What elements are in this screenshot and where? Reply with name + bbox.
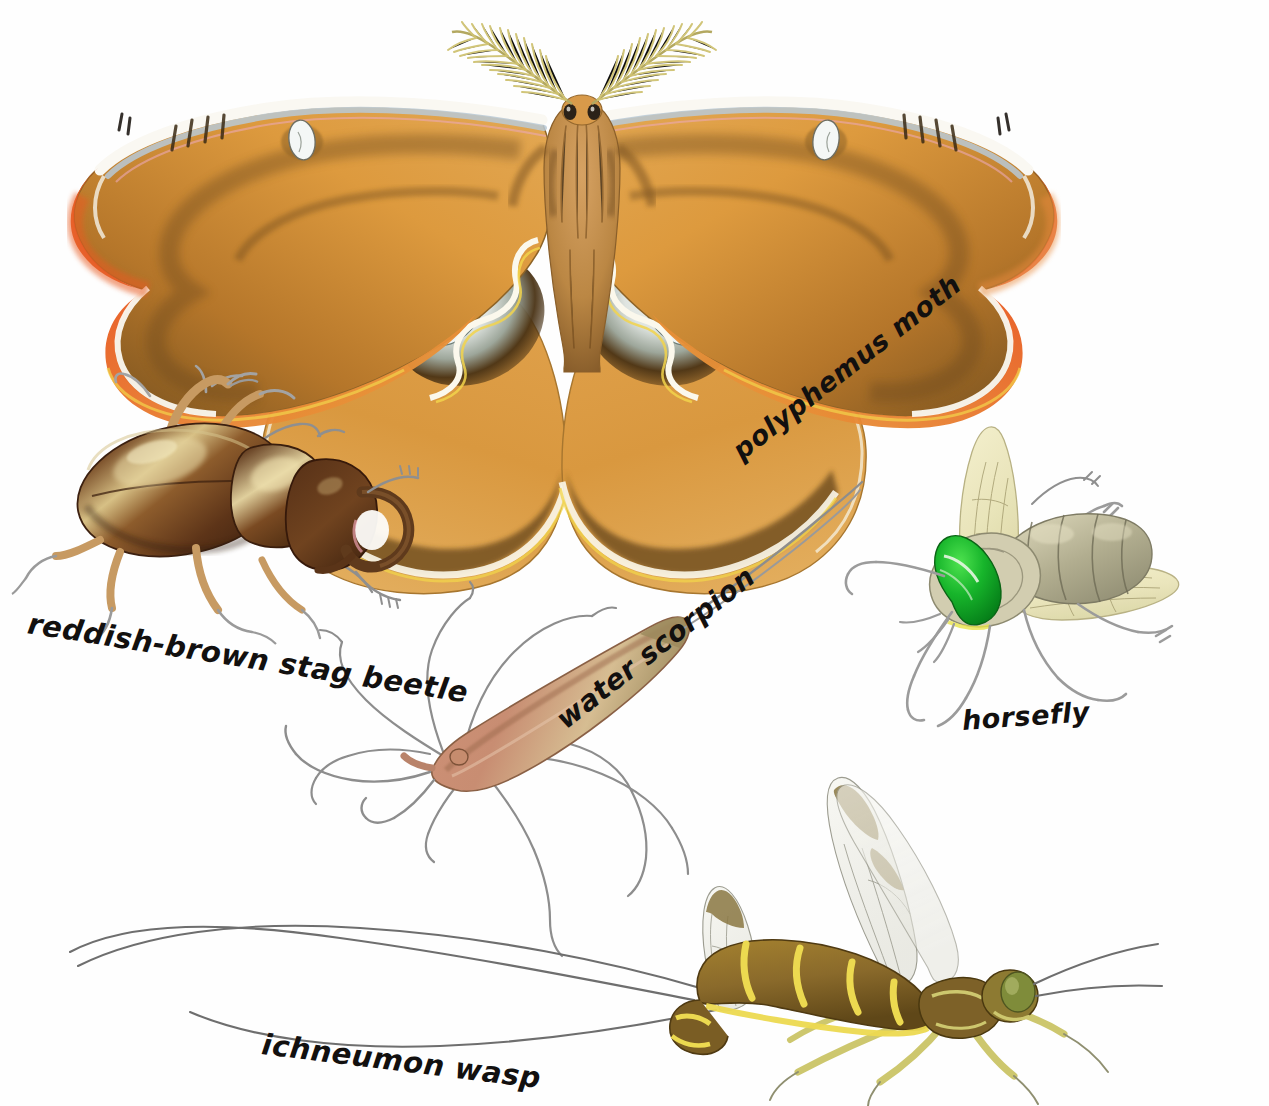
wasp-head	[982, 970, 1038, 1022]
wasp-ovipositor-threads	[70, 926, 716, 1047]
ichneumon-wasp-illustration	[70, 777, 1162, 1106]
wasp-antennae	[1034, 944, 1162, 996]
illustration-plate: polyphemus moth reddish-brown stag beetl…	[0, 0, 1269, 1106]
horsefly-illustration	[846, 427, 1179, 726]
illustration-canvas	[0, 0, 1269, 1106]
moth-antennae	[448, 22, 716, 104]
